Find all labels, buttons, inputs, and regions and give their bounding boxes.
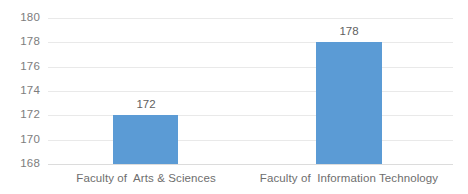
y-axis-tick-label: 176 — [6, 61, 40, 73]
y-axis-tick-label: 174 — [6, 85, 40, 97]
y-axis-tick-label: 178 — [6, 37, 40, 49]
bar-chart: 180 178 176 174 172 170 168 172 178 Facu… — [0, 0, 468, 194]
x-axis-label-faculty-of-arts-sciences: Faculty of Arts & Sciences — [76, 173, 215, 185]
x-axis-label-faculty-of-information-technology: Faculty of Information Technology — [260, 173, 438, 185]
y-axis-tick-label: 172 — [6, 110, 40, 122]
y-axis-tick-label: 170 — [6, 134, 40, 146]
y-axis-tick-label: 180 — [6, 12, 40, 24]
gridline — [48, 91, 453, 92]
bar-faculty-of-information-technology[interactable] — [316, 42, 382, 164]
gridline — [48, 115, 453, 116]
gridline — [48, 18, 453, 19]
x-axis-line — [48, 164, 453, 165]
gridline — [48, 42, 453, 43]
gridline — [48, 140, 453, 141]
data-label-bar-1: 172 — [136, 99, 155, 111]
plot-area — [48, 18, 453, 164]
bar-faculty-of-arts-sciences[interactable] — [113, 115, 178, 164]
data-label-bar-2: 178 — [339, 26, 358, 38]
gridline — [48, 67, 453, 68]
y-axis-tick-label: 168 — [6, 158, 40, 170]
